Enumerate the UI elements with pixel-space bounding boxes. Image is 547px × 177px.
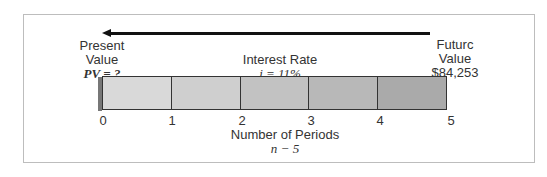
present-value-line2: Value xyxy=(72,53,132,67)
future-value-label: Futurc Value $84,253 xyxy=(420,38,490,80)
periods-count: n − 5 xyxy=(225,142,345,156)
period-segment-2 xyxy=(172,77,241,109)
period-segment-1 xyxy=(103,77,172,109)
future-value-line1: Futurc xyxy=(420,38,490,52)
tick-4: 4 xyxy=(370,113,390,128)
periods-axis-label: Number of Periods n − 5 xyxy=(225,128,345,156)
future-value-line2: Value xyxy=(420,52,490,66)
period-bar xyxy=(102,76,447,110)
periods-axis-title: Number of Periods xyxy=(225,128,345,142)
discount-arrow-line xyxy=(107,32,430,35)
period-segment-5 xyxy=(378,77,446,109)
present-value-line1: Present xyxy=(72,39,132,53)
period-segment-3 xyxy=(241,77,310,109)
tick-2: 2 xyxy=(232,113,252,128)
period-segment-4 xyxy=(309,77,378,109)
tick-0: 0 xyxy=(93,113,113,128)
tick-1: 1 xyxy=(162,113,182,128)
tick-3: 3 xyxy=(301,113,321,128)
interest-rate-title: Interest Rate xyxy=(225,53,335,67)
present-value-label: Present Value PV = ? xyxy=(72,39,132,81)
tick-5: 5 xyxy=(441,113,461,128)
